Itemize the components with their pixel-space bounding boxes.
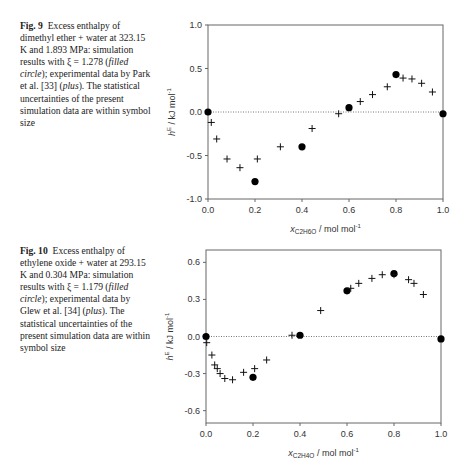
y-tick-label: 0.3 bbox=[187, 294, 200, 304]
simulation-point bbox=[392, 71, 399, 78]
x-tick-label: 0.2 bbox=[249, 205, 262, 215]
simulation-point bbox=[437, 335, 444, 342]
experimental-point bbox=[208, 352, 215, 359]
experimental-point bbox=[263, 356, 270, 363]
fig10-chart: -0.6-0.30.00.30.60.00.20.40.60.81.0xC2H4… bbox=[164, 250, 447, 459]
simulation-point bbox=[202, 333, 209, 340]
experimental-point bbox=[335, 110, 342, 117]
experimental-point bbox=[317, 307, 324, 314]
experimental-point bbox=[410, 280, 417, 287]
simulation-point bbox=[298, 143, 305, 150]
y-tick-label: 0.0 bbox=[187, 332, 200, 342]
x-tick-label: 0.2 bbox=[247, 429, 260, 439]
experimental-point bbox=[369, 91, 376, 98]
x-tick-label: 0.4 bbox=[296, 205, 309, 215]
x-tick-label: 0.0 bbox=[200, 429, 213, 439]
y-tick-label: 0.0 bbox=[189, 107, 202, 117]
experimental-point bbox=[418, 80, 425, 87]
experimental-point bbox=[251, 365, 258, 372]
experimental-point bbox=[309, 125, 316, 132]
experimental-point bbox=[384, 83, 391, 90]
experimental-point bbox=[240, 369, 247, 376]
experimental-point bbox=[236, 164, 243, 171]
fig9-chart: -1.0-0.50.00.51.00.00.20.40.60.81.0xC2H6… bbox=[166, 20, 449, 235]
experimental-point bbox=[429, 88, 436, 95]
simulation-point bbox=[439, 110, 446, 117]
x-tick-label: 1.0 bbox=[437, 205, 450, 215]
x-tick-label: 0.6 bbox=[341, 429, 354, 439]
x-tick-label: 0.6 bbox=[343, 205, 356, 215]
y-tick-label: -0.3 bbox=[184, 369, 200, 379]
x-tick-label: 0.0 bbox=[202, 205, 215, 215]
experimental-point bbox=[213, 135, 220, 142]
experimental-point bbox=[355, 280, 362, 287]
charts: -1.0-0.50.00.51.00.00.20.40.60.81.0xC2H6… bbox=[0, 0, 469, 470]
y-tick-label: -0.6 bbox=[184, 406, 200, 416]
y-tick-label: 0.6 bbox=[187, 257, 200, 267]
experimental-point bbox=[420, 291, 427, 298]
experimental-point bbox=[224, 155, 231, 162]
y-tick-label: 0.5 bbox=[189, 64, 202, 74]
experimental-point bbox=[221, 375, 228, 382]
x-axis-label: xC2H6O / mol mol-1 bbox=[289, 223, 361, 235]
x-tick-label: 0.4 bbox=[294, 429, 307, 439]
experimental-point bbox=[400, 75, 407, 82]
x-axis-label: xC2H4O / mol mol-1 bbox=[287, 447, 359, 459]
experimental-point bbox=[203, 339, 210, 346]
simulation-point bbox=[345, 104, 352, 111]
y-tick-label: 1.0 bbox=[189, 20, 202, 30]
simulation-point bbox=[249, 374, 256, 381]
experimental-point bbox=[289, 332, 296, 339]
x-tick-label: 0.8 bbox=[388, 429, 401, 439]
experimental-point bbox=[254, 155, 261, 162]
x-tick-label: 0.8 bbox=[390, 205, 403, 215]
experimental-point bbox=[379, 271, 386, 278]
experimental-point bbox=[208, 119, 215, 126]
simulation-point bbox=[251, 178, 258, 185]
experimental-point bbox=[357, 98, 364, 105]
experimental-point bbox=[405, 276, 412, 283]
y-axis-label: hE / kJ mol-1 bbox=[166, 87, 177, 136]
simulation-point bbox=[296, 332, 303, 339]
simulation-point bbox=[204, 108, 211, 115]
experimental-point bbox=[229, 376, 236, 383]
y-axis-label: hE / kJ mol-1 bbox=[164, 312, 175, 361]
experimental-point bbox=[408, 75, 415, 82]
experimental-point bbox=[368, 275, 375, 282]
y-tick-label: -0.5 bbox=[186, 151, 202, 161]
x-tick-label: 1.0 bbox=[435, 429, 448, 439]
y-tick-label: -1.0 bbox=[186, 194, 202, 204]
experimental-point bbox=[277, 143, 284, 150]
